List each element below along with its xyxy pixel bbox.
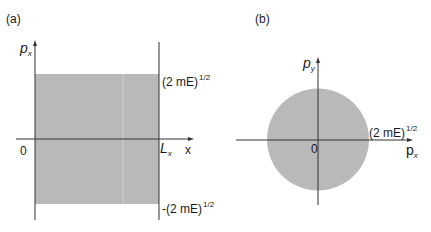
panel-a-upper-limit-label: (2 mE)1/2	[162, 76, 210, 88]
panel-a-origin-label: 0	[20, 145, 27, 157]
panel-b-radius-label: (2 mE)1/2	[369, 127, 417, 139]
panel-a-px-arrow-icon	[33, 40, 37, 46]
panel-b-x-axis-label: px	[406, 143, 418, 157]
panel-b-py-arrow-icon	[316, 57, 320, 63]
panel-a-x-arrow-icon	[188, 137, 194, 141]
panel-a-lx-label: Lx	[160, 141, 172, 155]
panel-a-x-axis-label: x	[185, 144, 191, 156]
panel-a-y-axis-label: px	[20, 41, 32, 55]
panel-b-origin-label: 0	[311, 143, 318, 155]
panel-b-y-axis-label: py	[303, 56, 315, 70]
phase-space-diagram	[0, 0, 431, 232]
panel-b-label: (b)	[255, 13, 270, 25]
panel-a-lower-limit-label: -(2 mE)1/2	[162, 203, 214, 215]
panel-a-label: (a)	[6, 13, 21, 25]
